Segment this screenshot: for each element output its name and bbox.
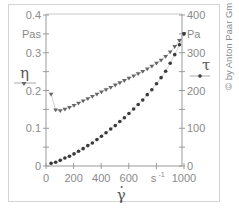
tau-point-circle-icon <box>136 103 140 107</box>
eta-point-triangle-icon <box>140 70 145 74</box>
svg-text:© by Anton Paar GmbH: © by Anton Paar GmbH <box>223 2 234 90</box>
eta-point-triangle-icon <box>113 84 118 88</box>
x-tick-label: 400 <box>92 172 110 184</box>
right-tick-label: 100 <box>187 122 205 134</box>
eta-point-triangle-icon <box>99 90 104 94</box>
eta-point-triangle-icon <box>72 104 77 108</box>
x-tick-label: 0 <box>43 172 49 184</box>
tau-point-circle-icon <box>113 124 117 128</box>
left-tick-label: 0 <box>35 160 41 172</box>
right-tick-label: 200 <box>187 85 205 97</box>
tau-point-circle-icon <box>81 147 85 151</box>
eta-point-triangle-icon <box>95 93 100 97</box>
tau-point-circle-icon <box>104 131 108 135</box>
tau-point-circle-icon <box>54 160 58 164</box>
tau-point-circle-icon <box>77 149 81 153</box>
tau-legend-marker-icon <box>198 74 202 78</box>
tau-point-circle-icon <box>141 98 145 102</box>
tau-point-circle-icon <box>159 76 163 80</box>
tau-point-circle-icon <box>58 159 62 163</box>
eta-point-triangle-icon <box>67 106 72 110</box>
eta-point-triangle-icon <box>108 86 113 90</box>
eta-point-triangle-icon <box>49 93 54 97</box>
tau-symbol: τ <box>202 56 210 74</box>
eta-point-triangle-icon <box>85 97 90 101</box>
eta-point-triangle-icon <box>131 75 136 79</box>
tau-point-circle-icon <box>109 127 113 131</box>
left-tick-label: 0.1 <box>26 122 41 134</box>
tau-point-circle-icon <box>150 88 154 92</box>
eta-point-triangle-icon <box>127 77 132 81</box>
right-tick-label: 400 <box>187 9 205 21</box>
eta-point-triangle-icon <box>122 79 127 83</box>
eta-line <box>51 34 184 111</box>
eta-point-triangle-icon <box>81 99 86 103</box>
tau-point-circle-icon <box>100 134 104 138</box>
tau-point-circle-icon <box>118 120 122 124</box>
tau-point-circle-icon <box>182 32 186 36</box>
tau-point-circle-icon <box>173 53 177 57</box>
left-tick-label: Pas <box>22 28 41 40</box>
tau-point-circle-icon <box>63 156 67 160</box>
x-unit-label: s <box>151 172 157 184</box>
right-tick-label: 0 <box>187 160 193 172</box>
x-tick-label: 600 <box>120 172 138 184</box>
copyright-notice: © by Anton Paar GmbH <box>222 2 236 92</box>
x-tick-label: 200 <box>64 172 82 184</box>
axes <box>43 14 185 169</box>
rheology-chart: 00.10.20.3Pas0.40100200300Pa400020040060… <box>0 0 239 208</box>
tau-line <box>51 34 184 164</box>
right-tick-label: Pa <box>187 28 201 40</box>
data-series <box>49 32 187 165</box>
tau-point-circle-icon <box>72 152 76 156</box>
tau-point-circle-icon <box>86 144 90 148</box>
eta-point-triangle-icon <box>58 109 63 113</box>
x-unit-exponent: -1 <box>158 171 164 178</box>
tau-point-circle-icon <box>49 162 53 166</box>
tau-point-circle-icon <box>95 138 99 142</box>
x-axis-symbol: γ <box>117 186 126 204</box>
eta-point-triangle-icon <box>149 65 154 69</box>
left-tick-label: 0.2 <box>26 85 41 97</box>
tau-point-circle-icon <box>127 112 131 116</box>
eta-point-triangle-icon <box>154 62 159 66</box>
left-tick-label: 0.4 <box>26 9 41 21</box>
tau-point-circle-icon <box>91 141 95 145</box>
eta-symbol: η <box>20 64 29 82</box>
x-axis-dot <box>121 186 123 188</box>
eta-point-triangle-icon <box>90 95 95 99</box>
eta-point-triangle-icon <box>145 67 150 71</box>
left-tick-label: 0.3 <box>26 47 41 59</box>
tau-point-circle-icon <box>123 116 127 120</box>
eta-point-triangle-icon <box>136 72 141 76</box>
eta-point-triangle-icon <box>76 102 81 106</box>
x-tick-label: 1000 <box>172 172 196 184</box>
tau-point-circle-icon <box>132 107 136 111</box>
tau-point-circle-icon <box>68 154 72 158</box>
eta-point-triangle-icon <box>104 88 109 92</box>
tau-point-circle-icon <box>145 93 149 97</box>
tau-point-circle-icon <box>155 82 159 86</box>
eta-point-triangle-icon <box>117 81 122 85</box>
tau-point-circle-icon <box>164 69 168 73</box>
tau-point-circle-icon <box>178 43 182 47</box>
eta-point-triangle-icon <box>159 59 164 63</box>
tau-point-circle-icon <box>168 62 172 66</box>
